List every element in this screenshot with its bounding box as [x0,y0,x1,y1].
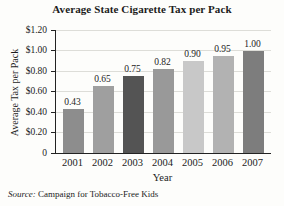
bar-value-label: 0.95 [206,44,240,54]
y-tick-mark [51,112,55,113]
x-tick-label: 2001 [56,157,90,168]
bar-2001 [63,109,84,153]
y-tick-label: $0.80 [7,67,47,76]
chart-title: Average State Cigarette Tax per Pack [0,3,284,15]
y-tick-label: $0.60 [7,87,47,96]
source-note: Source: Campaign for Tobacco-Free Kids [8,189,158,199]
y-tick-mark [51,91,55,92]
bar-value-label: 0.82 [146,57,180,67]
bar-2005 [183,61,204,153]
x-axis-title: Year [55,172,270,183]
bar-2007 [243,51,264,154]
x-tick-label: 2004 [146,157,180,168]
bar-value-label: 0.75 [116,64,150,74]
x-tick-label: 2003 [116,157,150,168]
x-tick-label: 2007 [236,157,270,168]
bar-2006 [213,56,234,153]
bar-value-label: 0.90 [176,49,210,59]
y-tick-label: $1.00 [7,46,47,55]
y-tick-mark [51,50,55,51]
x-tick-label: 2002 [86,157,120,168]
x-tick-label: 2005 [176,157,210,168]
source-text: Campaign for Tobacco-Free Kids [36,189,159,199]
y-tick-mark [51,132,55,133]
bar-value-label: 1.00 [236,39,270,49]
bar-2004 [153,69,174,153]
y-tick-label: $1.20 [7,26,47,35]
y-tick-label: 0 [7,149,47,158]
bar-value-label: 0.65 [86,74,120,84]
y-tick-mark [51,153,55,154]
x-tick-label: 2006 [206,157,240,168]
chart-figure: Average State Cigarette Tax per Pack Ave… [0,0,284,206]
y-tick-label: $0.40 [7,108,47,117]
y-tick-mark [51,30,55,31]
bar-value-label: 0.43 [56,97,90,107]
bar-2002 [93,86,114,153]
gridline [56,30,271,31]
source-label: Source: [8,189,36,199]
bar-2003 [123,76,144,153]
y-tick-label: $0.20 [7,128,47,137]
y-tick-mark [51,71,55,72]
